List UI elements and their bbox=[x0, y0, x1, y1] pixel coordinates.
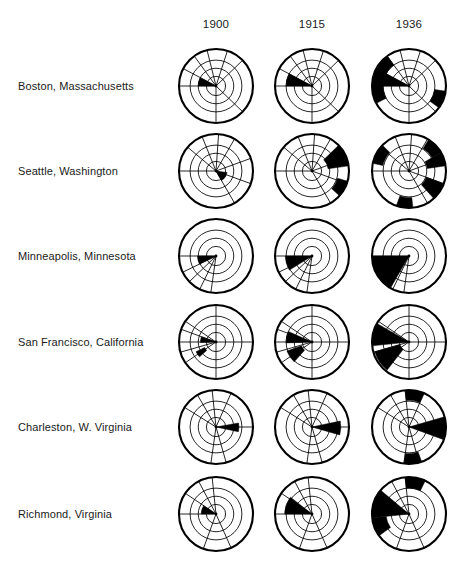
polar-diagram bbox=[368, 473, 450, 555]
filled-sector bbox=[286, 74, 312, 86]
polar-diagram bbox=[271, 386, 353, 468]
spoke bbox=[216, 134, 219, 171]
filled-sector-group bbox=[312, 421, 341, 435]
polar-diagram bbox=[271, 45, 353, 127]
polar-cell bbox=[368, 386, 450, 468]
filled-sector bbox=[404, 452, 422, 464]
polar-diagram bbox=[175, 473, 257, 555]
polar-cell bbox=[271, 215, 353, 297]
filled-sector bbox=[396, 196, 413, 208]
filled-sector bbox=[312, 421, 341, 435]
spoke bbox=[298, 137, 312, 171]
filled-sector-group bbox=[372, 477, 425, 536]
spoke bbox=[395, 137, 409, 171]
spoke bbox=[211, 427, 216, 464]
polar-diagram bbox=[175, 130, 257, 212]
filled-sector bbox=[200, 337, 216, 343]
spoke bbox=[188, 147, 216, 171]
polar-diagram bbox=[368, 386, 450, 468]
spoke bbox=[307, 427, 312, 464]
filled-sector bbox=[409, 417, 446, 440]
polar-cell bbox=[271, 473, 353, 555]
center-point bbox=[311, 341, 314, 344]
center-point bbox=[215, 85, 218, 88]
polar-diagram bbox=[368, 301, 450, 383]
center-point bbox=[215, 426, 218, 429]
filled-sector-group bbox=[216, 423, 239, 432]
filled-sector bbox=[383, 74, 409, 86]
spoke bbox=[312, 134, 315, 171]
center-point bbox=[311, 85, 314, 88]
polar-diagram bbox=[175, 386, 257, 468]
polar-cell bbox=[175, 215, 257, 297]
filled-sector bbox=[216, 171, 227, 181]
center-point bbox=[408, 85, 411, 88]
center-point bbox=[311, 426, 314, 429]
polar-growth-figure: 190019151936Boston, MassachusettsSeattle… bbox=[0, 0, 465, 566]
polar-cell bbox=[368, 301, 450, 383]
polar-cell bbox=[271, 45, 353, 127]
spoke bbox=[281, 407, 312, 427]
filled-sector-group bbox=[216, 171, 227, 181]
spoke bbox=[185, 407, 216, 427]
filled-sector bbox=[421, 177, 443, 198]
column-header-1936: 1936 bbox=[396, 18, 422, 30]
polar-diagram bbox=[368, 130, 450, 212]
polar-diagram bbox=[175, 45, 257, 127]
filled-sector bbox=[430, 90, 446, 108]
spoke bbox=[284, 147, 312, 171]
center-point bbox=[408, 170, 411, 173]
center-point bbox=[408, 341, 411, 344]
polar-diagram bbox=[175, 301, 257, 383]
filled-sector-group bbox=[198, 256, 217, 264]
filled-sector bbox=[216, 423, 239, 432]
polar-diagram bbox=[175, 215, 257, 297]
filled-sector-group bbox=[372, 256, 409, 288]
filled-sector bbox=[198, 256, 217, 264]
polar-cell bbox=[271, 386, 353, 468]
center-point bbox=[408, 513, 411, 516]
polar-cell bbox=[368, 45, 450, 127]
center-point bbox=[311, 255, 314, 258]
polar-cell bbox=[175, 473, 257, 555]
spoke bbox=[216, 139, 235, 171]
center-point bbox=[215, 341, 218, 344]
filled-sector bbox=[332, 178, 348, 195]
filled-sector bbox=[372, 324, 409, 346]
polar-cell bbox=[175, 130, 257, 212]
column-header-1900: 1900 bbox=[203, 18, 229, 30]
polar-cell bbox=[368, 215, 450, 297]
polar-diagram bbox=[368, 215, 450, 297]
spoke bbox=[409, 514, 424, 548]
polar-cell bbox=[271, 301, 353, 383]
spoke bbox=[312, 393, 327, 427]
filled-sector-group bbox=[286, 331, 312, 361]
filled-sector bbox=[372, 516, 390, 535]
row-label-city: Boston, Massachusetts bbox=[18, 80, 134, 92]
polar-diagram bbox=[271, 215, 353, 297]
center-point bbox=[215, 255, 218, 258]
spoke bbox=[216, 514, 231, 548]
row-label-city: Charleston, W. Virginia bbox=[18, 421, 132, 433]
spoke bbox=[312, 514, 327, 548]
center-point bbox=[311, 513, 314, 516]
center-point bbox=[215, 170, 218, 173]
polar-cell bbox=[368, 130, 450, 212]
filled-sector bbox=[324, 145, 349, 168]
polar-cell bbox=[175, 45, 257, 127]
row-label-city: Richmond, Virginia bbox=[18, 508, 112, 520]
center-point bbox=[408, 255, 411, 258]
filled-sector-group bbox=[286, 74, 312, 86]
polar-cell bbox=[368, 473, 450, 555]
spoke bbox=[216, 393, 231, 427]
filled-sector bbox=[372, 256, 409, 288]
polar-diagram bbox=[271, 301, 353, 383]
center-point bbox=[215, 513, 218, 516]
polar-cell bbox=[271, 130, 353, 212]
spoke bbox=[312, 171, 331, 203]
spoke bbox=[202, 137, 216, 171]
spoke bbox=[378, 407, 409, 427]
polar-cell bbox=[175, 301, 257, 383]
filled-sector bbox=[373, 145, 390, 165]
polar-diagram bbox=[271, 473, 353, 555]
